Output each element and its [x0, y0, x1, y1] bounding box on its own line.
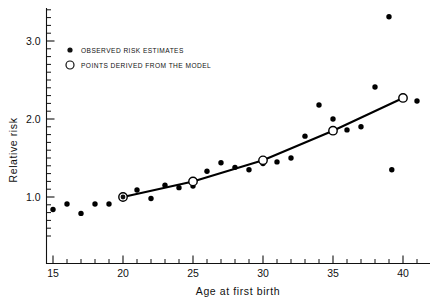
model-point: [399, 94, 407, 102]
x-tick-label: 30: [257, 267, 269, 279]
observed-point: [414, 98, 419, 103]
y-axis-title: Relative risk: [7, 117, 19, 182]
observed-point: [106, 201, 111, 206]
observed-point: [218, 160, 223, 165]
x-tick-label: 25: [187, 267, 199, 279]
model-data-points: [119, 94, 407, 201]
observed-point: [386, 14, 391, 19]
x-axis-minor-ticks: [67, 259, 417, 264]
observed-point: [148, 196, 153, 201]
y-axis-tick-labels: 1.02.03.0: [26, 35, 41, 203]
observed-point: [389, 167, 394, 172]
observed-point: [246, 167, 251, 172]
observed-point: [372, 84, 377, 89]
model-polyline: [123, 98, 403, 197]
x-axis-tick-labels: 152025303540: [47, 267, 409, 279]
x-tick-label: 40: [397, 267, 409, 279]
x-tick-label: 20: [117, 267, 129, 279]
legend-marker-observed: [67, 47, 72, 52]
observed-point: [50, 207, 55, 212]
observed-point: [358, 124, 363, 129]
scatter-plot: 1.02.03.0 152025303540 OBSERVED RISK EST…: [0, 0, 437, 305]
observed-point: [302, 133, 307, 138]
observed-point: [176, 185, 181, 190]
x-tick-label: 35: [327, 267, 339, 279]
observed-point: [316, 102, 321, 107]
model-point: [189, 177, 197, 185]
observed-point: [162, 183, 167, 188]
observed-point: [134, 187, 139, 192]
legend-marker-model: [66, 61, 74, 69]
observed-point: [344, 127, 349, 132]
y-tick-label: 1.0: [26, 191, 41, 203]
y-tick-label: 2.0: [26, 113, 41, 125]
y-axis-minor-ticks: [47, 10, 52, 236]
chart-figure: 1.02.03.0 152025303540 OBSERVED RISK EST…: [0, 0, 437, 305]
observed-point: [288, 155, 293, 160]
observed-point: [204, 169, 209, 174]
y-tick-label: 3.0: [26, 35, 41, 47]
observed-point: [64, 201, 69, 206]
observed-point: [232, 165, 237, 170]
model-anchor-point: [121, 195, 126, 200]
model-point: [259, 156, 267, 164]
x-tick-label: 15: [47, 267, 59, 279]
observed-point: [92, 201, 97, 206]
model-point: [329, 127, 337, 135]
observed-point: [330, 116, 335, 121]
legend: OBSERVED RISK ESTIMATESPOINTS DERIVED FR…: [66, 47, 211, 69]
x-axis-major-ticks: [53, 256, 403, 264]
observed-point: [78, 211, 83, 216]
legend-label: POINTS DERIVED FROM THE MODEL: [81, 62, 211, 69]
legend-label: OBSERVED RISK ESTIMATES: [81, 47, 184, 54]
observed-point: [274, 159, 279, 164]
model-fit-line: [123, 98, 403, 197]
x-axis-title: Age at first birth: [196, 285, 280, 297]
